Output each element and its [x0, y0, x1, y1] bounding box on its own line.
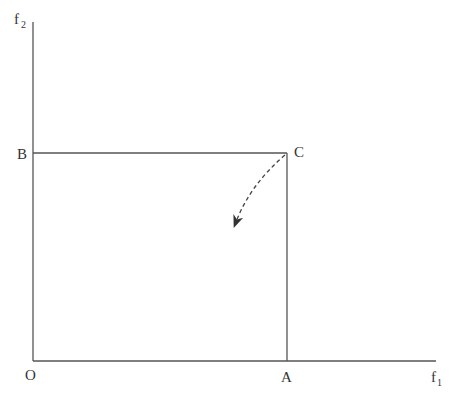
- point-c-label: C: [294, 144, 304, 160]
- point-b-label: B: [17, 146, 27, 162]
- diagram-canvas: f 2 B C O A f 1: [0, 0, 455, 400]
- origin-label: O: [25, 367, 36, 383]
- point-a-label: A: [281, 369, 292, 385]
- dashed-curved-arrow: [236, 155, 285, 222]
- y-axis-label-subscript: 2: [21, 19, 26, 30]
- x-axis-label: f: [431, 369, 436, 385]
- y-axis-label: f: [14, 11, 19, 27]
- x-axis-label-subscript: 1: [437, 377, 442, 388]
